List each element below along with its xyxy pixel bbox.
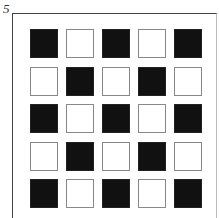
square-white-r1c4 (174, 67, 202, 96)
square-black-r2c2 (102, 104, 130, 133)
square-black-r2c0 (30, 104, 58, 133)
square-white-r3c2 (102, 142, 130, 171)
square-white-r2c3 (138, 104, 166, 133)
square-white-r1c2 (102, 67, 130, 96)
square-white-r0c3 (138, 29, 166, 58)
square-white-r2c1 (66, 104, 94, 133)
square-black-r4c4 (174, 179, 202, 208)
square-white-r1c0 (30, 67, 58, 96)
square-black-r0c2 (102, 29, 130, 58)
square-black-r3c1 (66, 142, 94, 171)
square-white-r4c3 (138, 179, 166, 208)
square-black-r4c2 (102, 179, 130, 208)
square-black-r2c4 (174, 104, 202, 133)
square-white-r0c1 (66, 29, 94, 58)
square-black-r0c4 (174, 29, 202, 58)
square-white-r4c1 (66, 179, 94, 208)
square-white-r3c4 (174, 142, 202, 171)
figure-label: 5 (3, 2, 10, 15)
square-black-r1c1 (66, 67, 94, 96)
square-black-r0c0 (30, 29, 58, 58)
checkerboard-grid (30, 29, 202, 208)
square-black-r4c0 (30, 179, 58, 208)
square-black-r1c3 (138, 67, 166, 96)
square-black-r3c3 (138, 142, 166, 171)
square-white-r3c0 (30, 142, 58, 171)
